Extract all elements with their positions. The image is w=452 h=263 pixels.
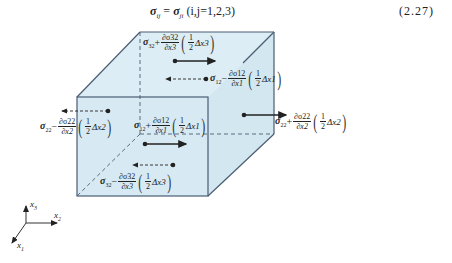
partial-derivative: ∂σ32∂x3: [161, 33, 179, 52]
sigma-symbol: σ22: [40, 120, 51, 133]
label-sigma22-plus-right: σ22 + ∂σ22∂x2 (12Δx2): [275, 112, 347, 131]
half-delta: (12Δx1): [247, 69, 282, 88]
sigma-symbol: σ32: [143, 36, 154, 49]
sign: −: [221, 73, 227, 84]
sign: +: [286, 116, 292, 127]
sign: −: [51, 121, 57, 132]
half-delta: (12Δx2): [312, 112, 347, 131]
sign: −: [111, 176, 117, 187]
partial-derivative: ∂σ22∂x2: [293, 112, 311, 131]
sigma-symbol: σ12: [210, 72, 221, 85]
label-sigma22-minus-left: σ22 − ∂σ22∂x2 (12Δx2): [40, 117, 112, 136]
sigma-symbol: σ22: [275, 115, 286, 128]
sign: +: [145, 120, 151, 131]
half-delta: (12Δx3): [180, 33, 215, 52]
partial-derivative: ∂σ32∂x3: [118, 172, 136, 191]
sigma-symbol: σ12: [134, 119, 145, 132]
label-sigma12-plus-front: σ12 + ∂σ12∂x1 (12Δx1): [134, 116, 206, 135]
label-sigma32-plus-top: σ32 + ∂σ32∂x3 (12Δx3): [143, 33, 215, 52]
axis-label-x2: x2: [54, 210, 61, 222]
partial-derivative: ∂σ12∂x1: [152, 116, 170, 135]
partial-derivative: ∂σ22∂x2: [58, 117, 76, 136]
axis-label-x1: x1: [17, 240, 24, 252]
label-sigma12-minus-back: σ12 − ∂σ12∂x1 (12Δx1): [210, 69, 282, 88]
half-delta: (12Δx1): [171, 116, 206, 135]
sigma-symbol: σ32: [100, 175, 111, 188]
label-sigma32-minus-bottom: σ32 − ∂σ32∂x3 (12Δx3): [100, 172, 172, 191]
coordinate-axes: [12, 206, 57, 243]
half-delta: (12Δx2): [77, 117, 112, 136]
axis-label-x3: x3: [30, 199, 37, 211]
sign: +: [154, 37, 160, 48]
half-delta: (12Δx3): [137, 172, 172, 191]
partial-derivative: ∂σ12∂x1: [228, 69, 246, 88]
